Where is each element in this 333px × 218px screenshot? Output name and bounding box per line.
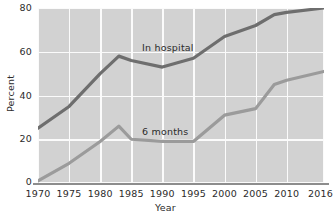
x-axis-line: [33, 183, 329, 185]
series-label-in-hospital: In hospital: [142, 42, 194, 53]
y-tick-label: 80: [8, 3, 32, 13]
x-tick-label: 1985: [119, 188, 144, 199]
x-tick-label: 1975: [57, 188, 82, 199]
x-tick-label: 1990: [150, 188, 175, 199]
x-tick-label: 1980: [88, 188, 113, 199]
x-tick-label: 2005: [243, 188, 268, 199]
x-axis-label: Year: [0, 202, 331, 213]
y-tick-label: 20: [8, 134, 32, 144]
y-tick-label: 0: [8, 177, 32, 187]
y-axis-label: Percent: [5, 62, 16, 126]
x-tick-label: 1970: [26, 188, 51, 199]
x-tick-label: 2010: [274, 188, 299, 199]
line-in-hospital: [38, 8, 324, 128]
x-tick-label: 1995: [181, 188, 206, 199]
y-tick-label: 60: [8, 47, 32, 57]
x-tick-label: 2016: [308, 188, 333, 199]
x-tick-label: 2000: [212, 188, 237, 199]
series-container: [38, 8, 324, 183]
series-label-6-months: 6 months: [142, 126, 188, 137]
